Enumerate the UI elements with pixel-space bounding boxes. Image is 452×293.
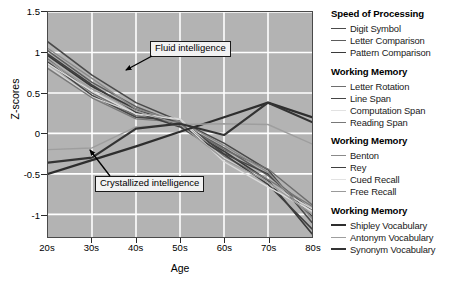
legend-item[interactable]: Rey [331, 162, 452, 174]
chart-legend: Speed of ProcessingDigit SymbolLetter Co… [331, 8, 452, 262]
legend-item[interactable]: Benton [331, 150, 452, 162]
legend-item[interactable]: Free Recall [331, 186, 452, 198]
legend-group: Working MemoryLetter RotationLine SpanCo… [331, 66, 452, 129]
legend-item[interactable]: Shipley Vocabulary [331, 219, 452, 231]
legend-swatch-line [331, 98, 346, 99]
legend-item[interactable]: Synonym Vocabulary [331, 243, 452, 255]
annotation-crystallized-intelligence: Crystallized intelligence [95, 176, 204, 192]
legend-item-label: Synonym Vocabulary [350, 244, 435, 255]
legend-swatch-line [331, 52, 346, 53]
x-tick-mark [269, 238, 270, 243]
legend-swatch-line [331, 122, 346, 123]
legend-item[interactable]: Digit Symbol [331, 23, 452, 35]
x-tick-label: 20s [39, 242, 54, 253]
legend-swatch-line [331, 86, 346, 87]
y-tick-label: 0 [35, 128, 40, 139]
x-axis-title: Age [47, 262, 313, 274]
x-tick-label: 80s [305, 242, 320, 253]
legend-group-title: Working Memory [331, 66, 452, 77]
legend-item-label: Letter Rotation [350, 81, 409, 92]
legend-swatch-line [331, 155, 346, 156]
x-tick-label: 40s [128, 242, 143, 253]
legend-item-label: Cued Recall [350, 174, 399, 185]
legend-item-label: Reading Span [350, 117, 408, 128]
legend-group: Working MemoryShipley VocabularyAntonym … [331, 205, 452, 256]
legend-item[interactable]: Letter Comparison [331, 35, 452, 47]
legend-swatch-line [331, 179, 346, 180]
legend-swatch-line [331, 248, 346, 250]
y-tick-label: -1 [32, 210, 40, 221]
line-chart: 1.510.50-0.5-1 Z-scores 20s30s40s50s60s7… [0, 0, 330, 293]
legend-group: Working MemoryBentonReyCued RecallFree R… [331, 135, 452, 198]
legend-item[interactable]: Cued Recall [331, 174, 452, 186]
legend-item-label: Pattern Comparison [350, 47, 431, 58]
legend-item[interactable]: Computation Span [331, 104, 452, 116]
annotation-fluid-intelligence: Fluid intelligence [150, 41, 231, 57]
legend-swatch-line [331, 110, 346, 111]
legend-item-label: Digit Symbol [350, 23, 401, 34]
legend-group-title: Working Memory [331, 135, 452, 146]
legend-item[interactable]: Antonym Vocabulary [331, 231, 452, 243]
x-tick-mark [180, 238, 181, 243]
legend-item-label: Letter Comparison [350, 35, 425, 46]
y-tick-label: 1.5 [27, 6, 40, 17]
y-axis-title: Z-scores [9, 59, 21, 139]
legend-item-label: Shipley Vocabulary [350, 220, 427, 231]
legend-item[interactable]: Reading Span [331, 116, 452, 128]
x-tick-mark [91, 238, 92, 243]
y-tick-label: 0.5 [27, 87, 40, 98]
legend-item-label: Free Recall [350, 186, 396, 197]
legend-swatch-line [331, 40, 346, 41]
legend-item-label: Benton [350, 150, 379, 161]
y-axis-ticks: 1.510.50-0.5-1 [0, 0, 45, 293]
x-tick-mark [224, 238, 225, 243]
x-tick-label: 30s [84, 242, 99, 253]
chart-screenshot: { "chart_data": { "type": "line", "title… [0, 0, 452, 293]
legend-item[interactable]: Pattern Comparison [331, 47, 452, 59]
legend-item-label: Computation Span [350, 105, 425, 116]
x-tick-mark [136, 238, 137, 243]
legend-item-label: Rey [350, 162, 366, 173]
x-tick-label: 70s [261, 242, 276, 253]
y-tick-label: 1 [35, 46, 40, 57]
legend-group-title: Speed of Processing [331, 8, 452, 19]
legend-item[interactable]: Letter Rotation [331, 80, 452, 92]
y-tick-label: -0.5 [24, 169, 40, 180]
x-tick-label: 60s [217, 242, 232, 253]
legend-item-label: Antonym Vocabulary [350, 232, 433, 243]
legend-item-label: Line Span [350, 93, 391, 104]
legend-swatch-line [331, 167, 346, 168]
legend-group: Speed of ProcessingDigit SymbolLetter Co… [331, 8, 452, 59]
x-tick-label: 50s [172, 242, 187, 253]
legend-swatch-line [331, 28, 346, 29]
legend-swatch-line [331, 191, 346, 192]
legend-swatch-line [331, 237, 346, 238]
legend-item[interactable]: Line Span [331, 92, 452, 104]
legend-swatch-line [331, 224, 346, 226]
legend-group-title: Working Memory [331, 205, 452, 216]
